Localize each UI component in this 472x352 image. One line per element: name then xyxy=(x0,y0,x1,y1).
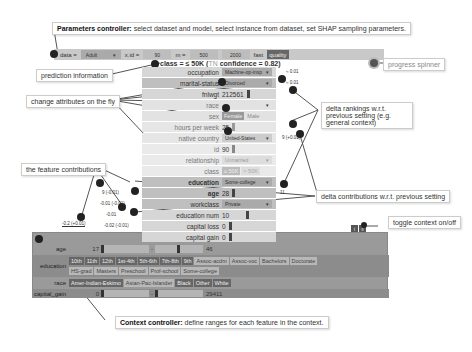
capital-gain-range-slider-left[interactable] xyxy=(101,290,149,297)
feature-label: occupation xyxy=(142,69,222,76)
sex-male-option[interactable]: Male xyxy=(245,112,261,120)
marker-dot xyxy=(280,180,288,188)
feature-label: age xyxy=(142,190,222,197)
contribution-bar xyxy=(232,189,235,197)
marker-dot xyxy=(289,86,297,94)
workclass-select[interactable]: Private▾ xyxy=(222,200,272,208)
relationship-select[interactable]: Unmarried▾ xyxy=(222,156,272,164)
class-gt50k-option[interactable]: > 50K xyxy=(241,167,260,175)
dataset-select[interactable]: Adult▾ xyxy=(81,50,121,59)
fast-option[interactable]: fast xyxy=(254,52,264,58)
dropdown-arrow-icon: ▾ xyxy=(266,135,269,141)
parameters-bar: data = Adult▾ x.id = 90 m = 500 2000 fas… xyxy=(54,49,384,60)
marker-dot xyxy=(96,179,104,187)
education-chip[interactable]: Preschool xyxy=(119,267,147,275)
education-num-input[interactable]: 10 xyxy=(222,212,229,219)
id-input[interactable]: 90 xyxy=(222,146,229,153)
callout-text: delta contributions w.r.t. previous sett… xyxy=(321,193,445,200)
capital-gain-min-value: 0 xyxy=(69,291,99,297)
context-row-capital-gain: capital_gain 0 - 29411 xyxy=(33,289,389,298)
m-min-input[interactable]: 500 xyxy=(190,50,218,59)
race-chip[interactable]: Other xyxy=(194,279,212,287)
capital-loss-input[interactable]: 0 xyxy=(222,223,226,230)
sex-female-option[interactable]: Female xyxy=(222,112,244,120)
occupation-select[interactable]: Machine-op-insp▾ xyxy=(222,68,272,76)
delta-rankings-callout: delta rankings w.r.t. previous setting (… xyxy=(321,102,413,129)
class-le50k-option[interactable]: ≤ 50K xyxy=(222,167,240,175)
dropdown-arrow-icon: ▾ xyxy=(266,157,269,163)
capital-gain-max-value: 29411 xyxy=(206,291,222,297)
fnlwgt-input[interactable]: 212561 xyxy=(222,91,244,98)
capital-gain-input[interactable]: 0 xyxy=(222,234,226,241)
education-chip[interactable]: Doctorate xyxy=(290,257,318,265)
education-chip[interactable]: HS-grad xyxy=(69,267,93,275)
marker-dot xyxy=(50,50,58,58)
race-chip[interactable]: Asian-Pac-Islander xyxy=(124,279,174,287)
change-attributes-callout: change attributes on the fly xyxy=(26,95,120,108)
education-chip[interactable]: Assoc-voc xyxy=(230,257,259,265)
education-chip[interactable]: 11th xyxy=(85,257,99,265)
education-chip[interactable]: Assoc-acdm xyxy=(194,257,228,265)
marker-dot xyxy=(130,208,138,216)
age-input[interactable]: 28 xyxy=(222,190,229,197)
native-country-select[interactable]: United-States▾ xyxy=(222,134,272,142)
dropdown-arrow-icon: ▾ xyxy=(266,102,269,108)
education-chip[interactable]: Bachelors xyxy=(260,257,288,265)
age-range-slider-right[interactable] xyxy=(155,245,203,253)
delta-contributions-callout: delta contributions w.r.t. previous sett… xyxy=(316,190,450,203)
age-range-slider-left[interactable] xyxy=(101,245,149,253)
context-controller-callout: Context controller: define ranges for ea… xyxy=(115,316,329,329)
education-chip[interactable]: 10th xyxy=(69,257,84,265)
callout-text: toggle context on/off xyxy=(393,219,456,226)
xid-input[interactable]: 90 xyxy=(143,50,171,59)
feature-contributions-callout: the feature contributions xyxy=(21,163,106,176)
quality-option[interactable]: quality xyxy=(267,50,288,59)
data-label: data = xyxy=(60,52,77,58)
feature-row-capital-gain: capital gain 0 xyxy=(142,232,276,242)
contrib-capital-loss: -0.02 (-0.01) xyxy=(104,223,129,228)
select-value: Unmarried xyxy=(225,157,248,163)
feature-label: hours per week xyxy=(142,124,222,131)
race-chip[interactable]: Amer-Indian-Eskimo xyxy=(69,279,123,287)
education-select[interactable]: Some-college▾ xyxy=(222,178,272,186)
context-label: education xyxy=(33,263,69,269)
prediction-info: class = ≤ 50K (TN confidence = 0.82) xyxy=(160,60,281,67)
education-chip[interactable]: 1st-4th xyxy=(116,257,137,265)
feature-row-native-country: native country United-States▾ xyxy=(142,133,276,143)
education-chip[interactable]: Some-college xyxy=(181,267,219,275)
slider-handle[interactable] xyxy=(155,290,158,297)
education-chip[interactable]: 7th-8th xyxy=(160,257,181,265)
marker-dot xyxy=(131,187,139,195)
education-chip[interactable]: 12th xyxy=(100,257,115,265)
feature-row-workclass: workclass Private▾ xyxy=(142,199,276,209)
dropdown-arrow-icon: ▾ xyxy=(266,179,269,185)
age-max-value: 46 xyxy=(206,246,213,252)
feature-row-age: age 28 xyxy=(142,188,276,198)
education-chip[interactable]: Prof-school xyxy=(149,267,181,275)
xid-label: x.id = xyxy=(125,52,140,58)
education-chip[interactable]: 5th-6th xyxy=(138,257,159,265)
slider-handle[interactable] xyxy=(101,290,104,297)
slider-handle[interactable] xyxy=(101,245,104,253)
feature-label: class xyxy=(142,168,222,175)
marker-dot xyxy=(361,222,367,228)
education-chip[interactable]: Masters xyxy=(94,267,118,275)
feature-label: capital loss xyxy=(142,223,222,230)
feature-row-relationship: relationship Unmarried▾ xyxy=(142,155,276,165)
slider-handle[interactable] xyxy=(177,245,180,253)
capital-gain-range-slider-right[interactable] xyxy=(155,290,203,297)
marital-status-select[interactable]: Divorced▾ xyxy=(222,79,272,87)
race-chip[interactable]: Black xyxy=(175,279,192,287)
callout-text: the feature contributions xyxy=(26,166,101,173)
rank-marital-status: ≈ 0.01 xyxy=(286,80,298,85)
education-chip[interactable]: 9th xyxy=(182,257,194,265)
m-label: m = xyxy=(175,52,185,58)
race-chip[interactable]: White xyxy=(213,279,231,287)
contrib-education-num: -0.01 xyxy=(106,212,116,217)
callout-text: select dataset and model, select instanc… xyxy=(132,25,406,32)
feature-row-capital-loss: capital loss 0 xyxy=(142,221,276,231)
feature-row-marital-status: marital-status Divorced▾ xyxy=(142,78,276,88)
dataset-value: Adult xyxy=(86,52,97,58)
m-max-input[interactable]: 2000 xyxy=(222,50,250,59)
dropdown-arrow-icon: ▾ xyxy=(266,69,269,75)
